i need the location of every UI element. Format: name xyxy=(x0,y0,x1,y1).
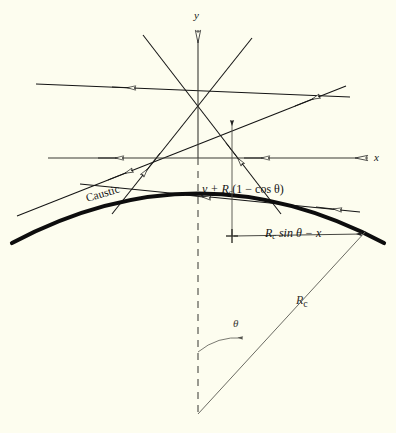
horizontal-dimension-tail: sin θ − x xyxy=(276,226,321,240)
vertical-dimension-lead: y + R xyxy=(202,182,229,196)
radius-line xyxy=(198,231,366,414)
vertical-dimension-label: y + Rc(1 − cos θ) xyxy=(202,183,284,197)
theta-angle-arc xyxy=(198,338,243,352)
vertical-dimension-tail: (1 − cos θ) xyxy=(232,182,284,196)
radius-subscript: c xyxy=(303,298,307,309)
ray-bundle xyxy=(17,35,360,216)
ray-left-diagonal-arrow-upper xyxy=(295,96,320,106)
ray-left-shallow-arrow xyxy=(112,87,136,88)
ray-upper-left-steep-arrow xyxy=(226,143,243,165)
radius-label: Rc xyxy=(296,294,308,309)
ray-upper-right-steep-arrow xyxy=(142,153,160,176)
horizontal-dimension-label: Rc sin θ − x xyxy=(265,227,321,241)
caustic-diagram-figure: y x Caustic y + Rc(1 − cos θ) Rc sin θ −… xyxy=(0,0,396,433)
ray-left-diagonal-arrow xyxy=(108,170,133,180)
x-axis-label: x xyxy=(374,152,379,163)
theta-angle-label: θ xyxy=(233,318,238,329)
diagram-canvas xyxy=(0,0,396,433)
y-axis-label: y xyxy=(194,10,199,21)
ray-left-shallow xyxy=(36,84,350,97)
